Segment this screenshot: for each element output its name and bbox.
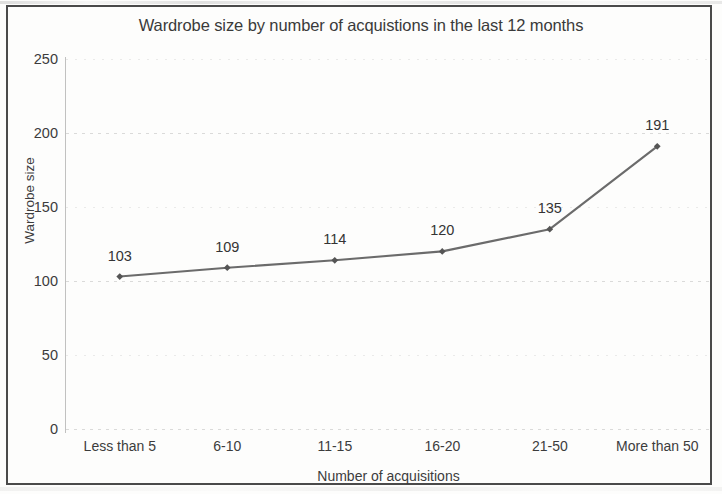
series-markers bbox=[116, 143, 660, 280]
gridline bbox=[66, 429, 711, 430]
data-point-label: 120 bbox=[430, 223, 454, 238]
scan-artifact-top bbox=[0, 1, 722, 4]
series-line-chart bbox=[66, 59, 711, 429]
chart-title: Wardrobe size by number of acquistions i… bbox=[8, 16, 714, 35]
data-point-label: 109 bbox=[215, 240, 239, 255]
x-axis-tick-label: 16-20 bbox=[424, 439, 460, 453]
chart-frame: Wardrobe size by number of acquistions i… bbox=[6, 5, 712, 485]
data-point-label: 191 bbox=[645, 118, 669, 133]
series-polyline bbox=[120, 146, 658, 276]
x-axis-tick-label: 11-15 bbox=[317, 439, 352, 453]
y-axis-tick-label: 50 bbox=[12, 348, 58, 363]
data-point-label: 103 bbox=[108, 249, 132, 264]
y-axis-tick-label: 150 bbox=[12, 200, 58, 215]
y-axis-tick-label: 250 bbox=[12, 52, 58, 67]
x-axis-tick-label: More than 50 bbox=[616, 439, 699, 453]
x-axis-tick-labels: Less than 56-1011-1516-2021-50More than … bbox=[66, 439, 711, 461]
data-point-marker bbox=[331, 257, 338, 264]
plot-area: 103109114120135191 bbox=[66, 59, 711, 429]
data-point-label: 114 bbox=[323, 232, 346, 247]
y-axis-tick-label: 0 bbox=[12, 422, 58, 437]
y-axis-tick-label: 200 bbox=[12, 126, 58, 141]
x-axis-tick-label: 21-50 bbox=[532, 439, 568, 453]
data-point-marker bbox=[439, 248, 446, 255]
data-point-marker bbox=[116, 273, 123, 280]
data-point-label: 135 bbox=[538, 201, 562, 216]
scan-artifact-bottom bbox=[0, 487, 722, 491]
x-axis-tick-label: 6-10 bbox=[213, 439, 241, 453]
y-axis-tick-labels: 050100150200250 bbox=[8, 59, 58, 429]
x-axis-tick-label: Less than 5 bbox=[84, 439, 156, 453]
y-axis-tick-label: 100 bbox=[12, 274, 58, 289]
x-axis-title: Number of acquisitions bbox=[66, 468, 711, 484]
data-point-marker bbox=[224, 264, 231, 271]
scanned-page: Wardrobe size by number of acquistions i… bbox=[0, 0, 722, 494]
